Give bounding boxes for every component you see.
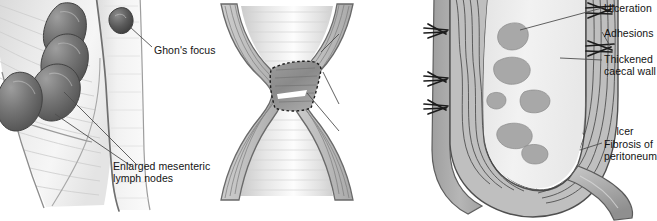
left-panel-artwork (0, 0, 220, 221)
ulcer-patch (498, 23, 529, 50)
ulcer-patch (522, 144, 548, 164)
label-adhesions: Adhesions (604, 27, 653, 39)
stricture-region (270, 61, 321, 111)
label-ghon-focus: Ghon's focus (154, 44, 216, 56)
label-thickened-caecal-wall: Thickenedcaecal wall (604, 53, 656, 77)
label-ulceration: Ulceration (604, 2, 652, 14)
panel-mesenteric-lymph-nodes: Ghon's focus Enlarged mesentericlymph no… (0, 0, 220, 221)
ulcer-patch (494, 57, 531, 84)
label-enlarged-mesenteric-lymph-nodes: Enlarged mesentericlymph nodes (113, 160, 210, 184)
ulcer-patch (487, 92, 506, 109)
ulcer-patch (520, 90, 550, 113)
panel-caecal-tuberculosis: Ulceration Adhesions Thickenedcaecal wal… (428, 0, 655, 221)
label-fibrosis-of-peritoneum: Fibrosis ofperitoneum (604, 138, 657, 162)
panel-intestinal-stricture: Thickenedwall Stricture Transverse ulcer (215, 0, 430, 221)
mid-panel-artwork (215, 0, 430, 221)
caption-strip (0, 213, 655, 221)
ghon-focus-lesion (109, 8, 133, 34)
leader-stricture (323, 72, 339, 104)
